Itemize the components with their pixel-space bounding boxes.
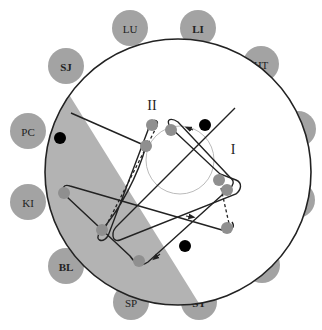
loop-label-I: I	[231, 142, 236, 157]
node-label: LU	[123, 23, 138, 35]
meridian-node-lu: LU	[112, 10, 148, 46]
node-label: SJ	[60, 61, 72, 73]
node-label: PC	[21, 126, 34, 138]
black-dot	[199, 119, 211, 131]
node-label: LI	[192, 23, 204, 35]
black-dot	[54, 132, 66, 144]
meridian-node-ki: KI	[10, 184, 46, 220]
node-label: KI	[22, 197, 34, 209]
loop-label-II: II	[147, 98, 157, 113]
node-label: SP	[125, 297, 137, 309]
meridian-clock-diagram: LULIHTSJSIPCGBKILRBLSPST II I	[0, 0, 322, 330]
meridian-node-pc: PC	[10, 113, 46, 149]
meridian-node-sj: SJ	[48, 48, 84, 84]
node-label: BL	[59, 261, 74, 273]
black-dot	[179, 240, 191, 252]
